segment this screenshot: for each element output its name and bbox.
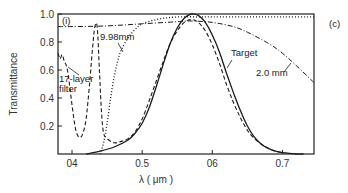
annotation-target: Target — [231, 47, 258, 58]
panel-label: (c) — [329, 18, 340, 29]
x-tick-label: 06 — [207, 158, 219, 169]
x-tick-label: 0.7 — [275, 158, 289, 169]
y-tick-label: 0.8 — [40, 37, 54, 48]
annotation-filter: filter — [59, 83, 77, 94]
x-axis-title: λ ( μm ) — [139, 174, 173, 185]
inset-label: (i) — [62, 15, 70, 26]
series-layer — [58, 14, 314, 154]
x-tick-label: 0.5 — [135, 158, 149, 169]
y-tick-label: 0.6 — [40, 65, 54, 76]
annotation-target-arrow — [227, 60, 232, 68]
y-tick-label: 0.4 — [40, 93, 54, 104]
axes-layer: 040.5060.70.20.40.60.81.0 — [40, 9, 314, 170]
transmittance-chart: 040.5060.70.20.40.60.81.0 Transmittance … — [0, 0, 348, 193]
series-17-layer-filter — [58, 20, 282, 153]
plot-frame — [58, 14, 314, 154]
y-axis-title: Transmittance — [8, 52, 19, 115]
y-tick-label: 1.0 — [40, 9, 54, 20]
annotation-2mm: 2.0 mm — [256, 67, 288, 78]
y-tick-label: 0.2 — [40, 121, 54, 132]
annotation-998mm: 9.98mm — [100, 31, 134, 42]
x-tick-label: 04 — [66, 158, 78, 169]
